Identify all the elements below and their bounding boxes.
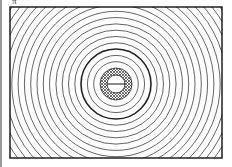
concentric-circles-diagram (0, 0, 232, 167)
ring-group (0, 0, 232, 167)
